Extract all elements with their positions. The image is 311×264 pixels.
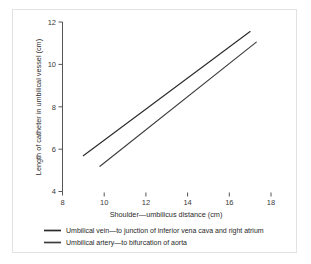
legend-label-umbilical-artery: Umbilical artery—to bifurcation of aorta bbox=[66, 239, 187, 247]
legend-label-umbilical-vein: Umbilical vein—to junction of inferior v… bbox=[66, 227, 264, 235]
series-line-umbilical-vein bbox=[83, 32, 250, 156]
y-axis-title: Length of catheter in umbilical vessel (… bbox=[34, 39, 43, 175]
y-axis-ticks bbox=[59, 22, 63, 192]
y-tick-label-6: 6 bbox=[52, 145, 56, 154]
x-tick-label-18: 18 bbox=[267, 198, 275, 207]
figure-container: 12 10 8 6 4 Length of catheter in umbili… bbox=[0, 0, 311, 264]
y-tick-label-4: 4 bbox=[52, 187, 56, 196]
x-axis-ticks bbox=[63, 192, 272, 197]
x-axis-title: Shoulder—umbilicus distance (cm) bbox=[110, 210, 223, 219]
x-tick-label-12: 12 bbox=[142, 198, 150, 207]
x-tick-label-16: 16 bbox=[225, 198, 233, 207]
legend: Umbilical vein—to junction of inferior v… bbox=[44, 227, 264, 247]
x-tick-label-10: 10 bbox=[100, 198, 108, 207]
y-tick-label-12: 12 bbox=[48, 18, 56, 27]
y-tick-label-10: 10 bbox=[48, 60, 56, 69]
y-tick-label-8: 8 bbox=[52, 103, 56, 112]
line-chart: 12 10 8 6 4 Length of catheter in umbili… bbox=[0, 0, 311, 264]
x-tick-label-8: 8 bbox=[60, 198, 64, 207]
x-tick-label-14: 14 bbox=[183, 198, 191, 207]
series-line-umbilical-artery bbox=[100, 42, 256, 166]
